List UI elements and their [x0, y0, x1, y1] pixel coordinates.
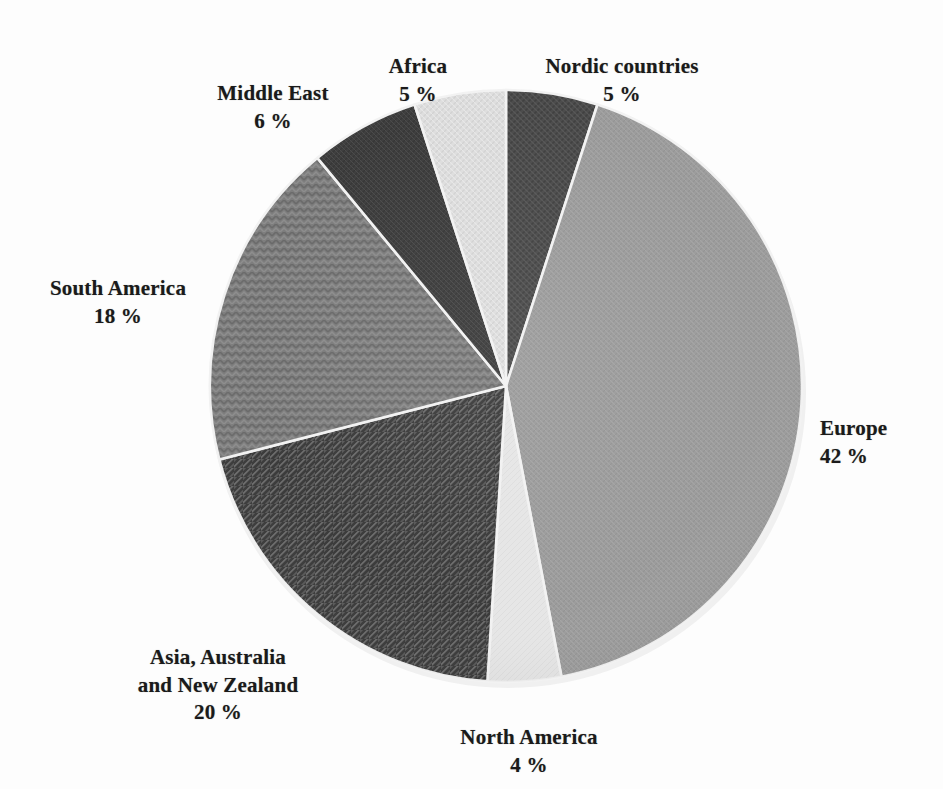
slice-label-middle-east: Middle East 6 %: [158, 53, 388, 162]
slice-label-north-america-name: North America: [460, 725, 597, 749]
slice-label-asia-australia-new-zealand: Asia, Australia and New Zealand 20 %: [82, 617, 354, 753]
slice-label-asia-australia-new-zealand-name: Asia, Australia and New Zealand: [138, 645, 299, 696]
slice-label-north-america-value: 4 %: [398, 752, 660, 779]
slice-label-nordic-countries-value: 5 %: [497, 81, 747, 108]
slice-label-asia-australia-new-zealand-value: 20 %: [82, 699, 354, 726]
slice-label-south-america-name: South America: [50, 276, 186, 300]
slice-label-nordic-countries: Nordic countries 5 %: [497, 26, 747, 135]
pie-slice-group: [210, 90, 802, 682]
slice-label-north-america: North America 4 %: [398, 697, 660, 789]
slice-label-europe: Europe 42 %: [820, 388, 943, 497]
pie-chart: Nordic countries 5 % Africa 5 % Middle E…: [0, 0, 943, 789]
slice-label-south-america: South America 18 %: [2, 248, 234, 357]
slice-label-middle-east-name: Middle East: [217, 81, 328, 105]
slice-label-south-america-value: 18 %: [2, 303, 234, 330]
slice-label-africa-name: Africa: [389, 54, 447, 78]
slice-label-europe-name: Europe: [820, 416, 887, 440]
slice-label-europe-value: 42 %: [820, 443, 943, 470]
slice-label-nordic-countries-name: Nordic countries: [545, 54, 698, 78]
slice-label-middle-east-value: 6 %: [158, 108, 388, 135]
